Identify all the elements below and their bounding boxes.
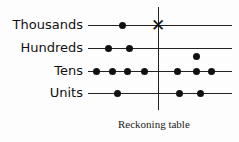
counter-dot bbox=[124, 68, 131, 75]
counter-dot bbox=[119, 22, 126, 29]
cross-marker-icon: ✕ bbox=[151, 17, 165, 34]
counter-dot bbox=[208, 68, 215, 75]
counter-dot bbox=[141, 68, 148, 75]
counter-dot bbox=[197, 90, 204, 97]
row-label-thousands: Thousands bbox=[13, 18, 83, 31]
row-label-tens: Tens bbox=[54, 64, 83, 77]
units-line bbox=[88, 93, 232, 94]
row-label-hundreds: Hundreds bbox=[20, 41, 83, 54]
counter-dot bbox=[193, 68, 200, 75]
counter-dot bbox=[93, 68, 100, 75]
counter-dot bbox=[114, 90, 121, 97]
row-label-units: Units bbox=[50, 86, 83, 99]
reckoning-table-diagram: Thousands Hundreds Tens Units ✕ Reckonin… bbox=[0, 0, 239, 142]
caption: Reckoning table bbox=[0, 118, 239, 130]
counter-dot bbox=[109, 68, 116, 75]
counter-dot bbox=[193, 53, 200, 60]
counter-dot bbox=[174, 68, 181, 75]
counter-dot bbox=[126, 45, 133, 52]
counter-dot bbox=[176, 90, 183, 97]
counter-dot bbox=[105, 45, 112, 52]
